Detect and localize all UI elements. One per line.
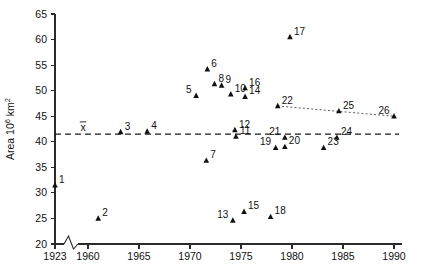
y-axis-tick-label: 45: [35, 110, 47, 122]
x-axis-tick-label: 1980: [280, 250, 304, 262]
data-point-marker: [193, 93, 199, 98]
data-point-marker: [212, 81, 218, 86]
trend-line-path: [278, 106, 394, 116]
y-axis-tick-label: 30: [35, 186, 47, 198]
y-axis-tick-label: 55: [35, 59, 47, 71]
data-point: 18: [268, 205, 286, 219]
data-point-label: 24: [341, 126, 353, 137]
x-axis-tick-label: 1965: [127, 250, 151, 262]
data-point-label: 2: [102, 207, 108, 218]
data-point-label: 1: [59, 174, 65, 185]
data-point-marker: [230, 217, 236, 222]
data-point: 15: [241, 200, 259, 214]
data-point: 24: [334, 126, 352, 140]
data-point: 13: [217, 209, 235, 223]
data-point-label: 3: [125, 121, 131, 132]
x-axis-break: [64, 236, 78, 249]
data-point: 4: [144, 120, 157, 134]
data-point-label: 25: [343, 100, 355, 111]
data-point-label: 16: [249, 77, 261, 88]
data-point-marker: [205, 66, 211, 71]
data-point-marker: [321, 145, 327, 150]
y-axis-tick-label: 25: [35, 212, 47, 224]
data-point: 6: [205, 58, 218, 72]
data-point-label: 20: [289, 135, 301, 146]
data-point-marker: [282, 144, 288, 149]
data-point-label: 4: [151, 120, 157, 131]
data-point-label: 17: [294, 26, 306, 37]
data-point-marker: [232, 127, 238, 132]
data-point-marker: [241, 209, 247, 214]
x-axis-tick-label: 1960: [76, 250, 100, 262]
data-point-marker: [228, 91, 234, 96]
data-point-label: 13: [217, 209, 229, 220]
scatter-chart: 20253035404550556065 1923196019651970197…: [0, 0, 428, 275]
y-axis-tick-label: 40: [35, 135, 47, 147]
data-point-label: 8: [218, 73, 224, 84]
y-axis: 20253035404550556065: [35, 8, 55, 250]
x-axis-tick-label: 1985: [331, 250, 355, 262]
data-point-marker: [95, 215, 101, 220]
y-axis-tick-label: 60: [35, 33, 47, 45]
data-points: 1234567891011121314151617181920212223242…: [52, 26, 397, 223]
y-axis-tick-label: 20: [35, 238, 47, 250]
data-point: 19: [260, 136, 278, 150]
x-axis-tick-label: 1970: [178, 250, 202, 262]
data-point-label: 18: [275, 205, 287, 216]
data-point: 3: [118, 121, 131, 135]
trend-line: [278, 106, 394, 116]
data-point-label: 5: [186, 84, 192, 95]
chart-canvas: 20253035404550556065 1923196019651970197…: [0, 0, 428, 275]
data-point: 17: [287, 26, 305, 40]
data-point-marker: [118, 129, 124, 134]
axis-titles: Area 106 km2: [3, 98, 17, 160]
data-point: 2: [95, 207, 108, 221]
y-axis-tick-label: 35: [35, 161, 47, 173]
data-point-label: 26: [378, 105, 390, 116]
data-point-label: 12: [239, 119, 251, 130]
data-point: 7: [204, 149, 217, 163]
x-axis-tick-label: 1990: [382, 250, 406, 262]
data-point: 22: [275, 95, 293, 109]
x-axis-tick-label: 1923: [43, 250, 67, 262]
data-point-label: 7: [210, 149, 216, 160]
data-point-label: 21: [269, 126, 281, 137]
data-point-marker: [287, 34, 293, 39]
y-axis-tick-label: 65: [35, 8, 47, 20]
data-point: 26: [378, 105, 396, 119]
data-point-label: 6: [211, 58, 217, 69]
mean-line-label: x: [80, 121, 86, 133]
data-point-label: 19: [260, 136, 272, 147]
data-point-label: 22: [282, 95, 294, 106]
data-point-marker: [204, 157, 210, 162]
data-point: 1: [52, 174, 65, 188]
data-point-marker: [273, 145, 279, 150]
data-point: 21: [269, 126, 287, 140]
data-point-marker: [275, 103, 281, 108]
data-point-label: 9: [226, 74, 232, 85]
data-point-label: 15: [248, 200, 260, 211]
data-point-marker: [144, 128, 150, 133]
x-axis-tick-label: 1975: [229, 250, 253, 262]
data-point-marker: [336, 108, 342, 113]
y-axis-title: Area 106 km2: [3, 98, 17, 160]
data-point-marker: [52, 182, 58, 187]
data-point: 5: [186, 84, 199, 98]
data-point: 25: [336, 100, 354, 114]
data-point-marker: [268, 214, 274, 219]
y-axis-tick-label: 50: [35, 84, 47, 96]
x-axis: 19231960196519701975198019851990: [43, 236, 406, 262]
data-point-marker: [242, 94, 248, 99]
data-point-marker: [282, 134, 288, 139]
